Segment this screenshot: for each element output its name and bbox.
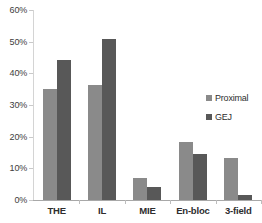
x-axis-category-label: THE bbox=[34, 205, 79, 216]
bar-gej bbox=[102, 39, 116, 200]
x-axis-line bbox=[33, 200, 261, 201]
x-axis-category-separator bbox=[216, 200, 217, 204]
y-axis-tick-mark bbox=[29, 137, 33, 138]
y-axis-tick-label: 0% bbox=[0, 195, 27, 205]
bar-proximal bbox=[224, 158, 238, 200]
y-axis-tick-label: 50% bbox=[0, 37, 27, 47]
x-axis-category-label: 3-field bbox=[216, 205, 261, 216]
bar-gej bbox=[147, 187, 161, 200]
y-axis-tick-label: 10% bbox=[0, 163, 27, 173]
x-axis-category-label: MIE bbox=[125, 205, 170, 216]
y-axis-tick-mark bbox=[29, 10, 33, 11]
legend-item[interactable]: Proximal bbox=[206, 93, 248, 103]
x-axis-category-separator bbox=[79, 200, 80, 204]
bar-proximal bbox=[88, 85, 102, 200]
x-axis-end-tick bbox=[261, 200, 262, 204]
y-axis-tick-mark bbox=[29, 105, 33, 106]
y-axis-tick-label: 30% bbox=[0, 100, 27, 110]
legend-item-label: Proximal bbox=[215, 93, 248, 103]
y-axis-tick-label: 20% bbox=[0, 132, 27, 142]
bar-proximal bbox=[133, 178, 147, 200]
x-axis-category-separator bbox=[125, 200, 126, 204]
legend-item-label: GEJ bbox=[215, 112, 232, 122]
bar-group bbox=[34, 10, 79, 200]
y-axis-tick-label: 60% bbox=[0, 5, 27, 15]
y-axis-tick-label: 40% bbox=[0, 68, 27, 78]
bar-proximal bbox=[179, 142, 193, 200]
x-axis-category-label: En-bloc bbox=[170, 205, 215, 216]
x-axis-category-label: IL bbox=[79, 205, 124, 216]
bar-group bbox=[79, 10, 124, 200]
y-axis-tick-mark bbox=[29, 73, 33, 74]
legend-item[interactable]: GEJ bbox=[206, 112, 248, 122]
chart-legend: ProximalGEJ bbox=[206, 93, 248, 131]
y-axis-tick-mark bbox=[29, 42, 33, 43]
bar-group bbox=[125, 10, 170, 200]
y-axis-tick-mark bbox=[29, 168, 33, 169]
bar-gej bbox=[57, 60, 71, 200]
x-axis-category-separator bbox=[170, 200, 171, 204]
legend-swatch-proximal-icon bbox=[206, 95, 212, 101]
bar-gej bbox=[193, 154, 207, 200]
legend-swatch-gej-icon bbox=[206, 114, 212, 120]
bar-gej bbox=[238, 195, 252, 200]
y-axis-tick-mark bbox=[29, 200, 33, 201]
bar-proximal bbox=[43, 89, 57, 200]
bar-chart: 0%10%20%30%40%50%60% THEILMIEEn-bloc3-fi… bbox=[0, 0, 262, 223]
